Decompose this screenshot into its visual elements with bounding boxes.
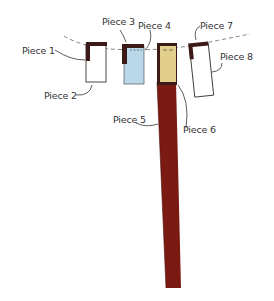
leader-piece-4 <box>145 30 151 50</box>
leader-piece-2 <box>76 85 92 95</box>
piece-6-shape <box>160 46 176 82</box>
piece-group-3-4 <box>122 44 144 84</box>
label-piece-5: Piece 5 <box>113 114 146 125</box>
label-piece-2: Piece 2 <box>44 90 77 101</box>
leader-piece-6 <box>178 85 187 128</box>
label-piece-1: Piece 1 <box>22 45 55 56</box>
diagram-canvas: Piece 1 Piece 2 Piece 3 Piece 4 Piece 5 … <box>0 0 274 301</box>
leader-piece-3 <box>120 30 126 42</box>
label-piece-6: Piece 6 <box>183 124 216 135</box>
piece-5-shape <box>157 82 181 288</box>
leader-piece-8 <box>212 63 222 72</box>
piece-group-6 <box>157 43 177 85</box>
label-piece-4: Piece 4 <box>138 20 171 31</box>
label-piece-3: Piece 3 <box>102 16 135 27</box>
leader-piece-1 <box>55 50 85 60</box>
piece-group-1-2 <box>86 42 107 82</box>
label-piece-7: Piece 7 <box>200 20 233 31</box>
piece-group-7-8 <box>188 41 214 97</box>
label-piece-8: Piece 8 <box>220 51 253 62</box>
